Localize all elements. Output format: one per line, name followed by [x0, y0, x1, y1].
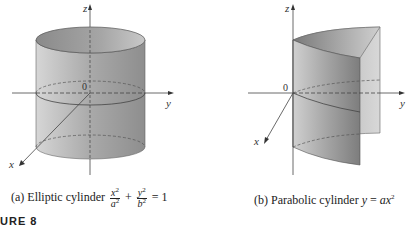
caption-b-text: (b) Parabolic cylinder — [254, 193, 359, 207]
y-axis-arrowhead — [399, 91, 405, 95]
caption-a-text: (a) Elliptic cylinder — [11, 190, 105, 204]
caption-b: (b) Parabolic cylinder y = ax2 — [254, 193, 395, 208]
z-axis-label: z — [82, 2, 88, 14]
origin-label: 0 — [283, 82, 288, 93]
y-axis-arrowhead — [168, 91, 174, 95]
elliptic-cylinder-diagram: z y x 0 — [8, 2, 174, 175]
fraction-y2-over-b2: y2 b2 — [137, 188, 147, 209]
figure-label: URE 8 — [0, 215, 37, 227]
origin-label: 0 — [82, 81, 87, 92]
caption-a: (a) Elliptic cylinder x2 a2 + y2 b2 = 1 — [11, 188, 167, 209]
y-axis-label: y — [399, 97, 405, 109]
equals-sign: = — [370, 193, 377, 207]
parabolic-sheet-front — [293, 40, 360, 165]
z-axis-arrowhead — [88, 4, 92, 10]
exponent: 2 — [116, 197, 120, 205]
cylinder-top-rim — [36, 27, 145, 53]
x-axis — [266, 93, 293, 140]
exponent: 2 — [115, 186, 119, 194]
z-axis-label: z — [284, 2, 290, 14]
parabolic-cylinder-diagram: z y x 0 — [248, 2, 405, 175]
exponent: 2 — [142, 197, 146, 205]
x-axis-label: x — [253, 135, 259, 147]
plus-sign: + — [125, 190, 132, 204]
fraction-x2-over-a2: x2 a2 — [110, 188, 120, 209]
x-axis-arrowhead — [264, 137, 269, 144]
cylinder-surface — [36, 40, 145, 159]
exponent: 2 — [142, 186, 146, 194]
equation-lhs: y — [362, 193, 367, 207]
z-axis-arrowhead — [291, 4, 295, 10]
equals-one: = 1 — [152, 190, 168, 204]
y-axis-label: y — [165, 97, 171, 109]
x-axis-label: x — [8, 158, 14, 170]
exponent: 2 — [391, 193, 395, 201]
